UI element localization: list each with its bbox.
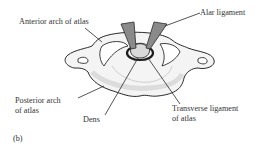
leader-alar-ligament <box>165 13 200 26</box>
panel-label: (b) <box>13 134 23 144</box>
label-transverse-ligament-line1: Transverse ligament <box>172 104 238 114</box>
atlas-diagram: Anterior arch of atlas Alar ligament Pos… <box>0 0 276 150</box>
right-transverse-foramen <box>198 58 207 64</box>
label-anterior-arch: Anterior arch of atlas <box>19 17 89 27</box>
label-transverse-ligament-line2: of atlas <box>172 114 196 124</box>
leader-posterior-arch <box>78 86 104 98</box>
label-dens: Dens <box>83 115 100 125</box>
label-posterior-arch-line1: Posterior arch <box>15 96 61 106</box>
leader-anterior-arch <box>85 28 102 42</box>
left-transverse-foramen <box>78 57 88 63</box>
label-posterior-arch-line2: of atlas <box>15 106 39 116</box>
label-alar-ligament: Alar ligament <box>200 8 245 18</box>
